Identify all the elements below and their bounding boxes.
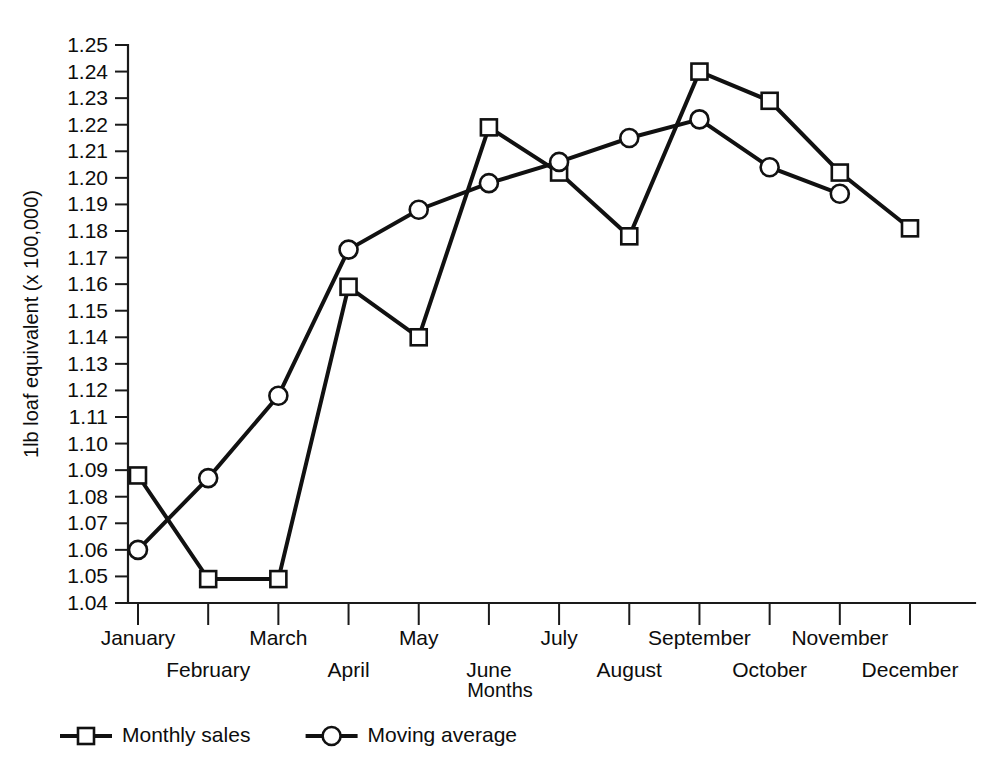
x-axis-tick-label: January <box>101 626 176 649</box>
series-line <box>138 72 910 579</box>
y-axis-tick-label: 1.08 <box>67 485 108 508</box>
data-point-circle[interactable] <box>199 469 217 487</box>
data-point-square[interactable] <box>902 220 918 236</box>
data-point-circle[interactable] <box>620 129 638 147</box>
x-axis-tick-label: December <box>862 658 959 681</box>
data-point-circle[interactable] <box>129 541 147 559</box>
y-axis-tick-label: 1.16 <box>67 272 108 295</box>
y-axis-tick-label: 1.19 <box>67 192 108 215</box>
legend-marker-circle <box>323 727 341 745</box>
series-monthly-sales <box>130 64 918 588</box>
legend-item[interactable]: Moving average <box>306 723 517 746</box>
x-axis-tick-label: September <box>648 626 751 649</box>
legend-label: Moving average <box>368 723 517 746</box>
y-axis-tick-label: 1.25 <box>67 33 108 56</box>
data-point-square[interactable] <box>341 279 357 295</box>
y-axis-tick-label: 1.18 <box>67 219 108 242</box>
x-axis-tick-label: August <box>597 658 663 681</box>
y-axis-tick-label: 1.23 <box>67 86 108 109</box>
data-point-square[interactable] <box>481 119 497 135</box>
y-axis-tick-label: 1.10 <box>67 432 108 455</box>
x-axis-tick-label: April <box>328 658 370 681</box>
y-axis-tick-label: 1.05 <box>67 564 108 587</box>
x-axis-tick-label: February <box>166 658 251 681</box>
series-moving-average <box>129 110 849 558</box>
data-point-square[interactable] <box>621 228 637 244</box>
data-point-square[interactable] <box>130 467 146 483</box>
y-axis-tick-label: 1.09 <box>67 458 108 481</box>
y-axis-tick-label: 1.13 <box>67 352 108 375</box>
y-axis-tick-label: 1.12 <box>67 378 108 401</box>
x-axis-tick-label: June <box>466 658 512 681</box>
y-axis-title: 1lb loaf equivalent (x 100,000) <box>20 190 42 458</box>
x-axis-title: Months <box>467 679 533 701</box>
y-axis-tick-label: 1.07 <box>67 511 108 534</box>
data-point-circle[interactable] <box>340 241 358 259</box>
y-axis-tick-label: 1.24 <box>67 60 108 83</box>
data-point-square[interactable] <box>832 165 848 181</box>
data-point-circle[interactable] <box>550 153 568 171</box>
y-axis-tick-label: 1.20 <box>67 166 108 189</box>
data-point-circle[interactable] <box>690 110 708 128</box>
y-axis-tick-label: 1.21 <box>67 139 108 162</box>
y-axis-tick-label: 1.04 <box>67 591 108 614</box>
x-axis-tick-label: October <box>732 658 807 681</box>
y-axis: 1.041.051.061.071.081.091.101.111.121.13… <box>67 33 128 614</box>
x-axis-tick-label: November <box>791 626 888 649</box>
chart-legend: Monthly salesMoving average <box>60 723 517 746</box>
data-point-square[interactable] <box>762 93 778 109</box>
y-axis-tick-label: 1.11 <box>69 405 108 428</box>
line-chart: 1.041.051.061.071.081.091.101.111.121.13… <box>0 0 1002 767</box>
data-point-square[interactable] <box>691 64 707 80</box>
x-axis-tick-label: July <box>540 626 578 649</box>
y-axis-tick-label: 1.06 <box>67 538 108 561</box>
data-point-square[interactable] <box>270 571 286 587</box>
legend-item[interactable]: Monthly sales <box>60 723 250 746</box>
chart-container: 1.041.051.061.071.081.091.101.111.121.13… <box>0 0 1002 767</box>
data-point-circle[interactable] <box>410 201 428 219</box>
data-point-circle[interactable] <box>831 185 849 203</box>
data-point-square[interactable] <box>411 329 427 345</box>
y-axis-tick-label: 1.14 <box>67 325 108 348</box>
y-axis-tick-label: 1.15 <box>67 299 108 322</box>
y-axis-tick-label: 1.17 <box>67 246 108 269</box>
x-axis: JanuaryFebruaryMarchAprilMayJuneJulyAugu… <box>101 603 975 681</box>
x-axis-tick-label: May <box>399 626 439 649</box>
data-point-circle[interactable] <box>269 387 287 405</box>
x-axis-tick-label: March <box>249 626 307 649</box>
y-axis-tick-label: 1.22 <box>67 113 108 136</box>
legend-label: Monthly sales <box>122 723 250 746</box>
data-point-square[interactable] <box>200 571 216 587</box>
legend-marker-square <box>78 728 94 744</box>
data-series <box>129 64 918 588</box>
data-point-circle[interactable] <box>480 174 498 192</box>
data-point-circle[interactable] <box>761 158 779 176</box>
